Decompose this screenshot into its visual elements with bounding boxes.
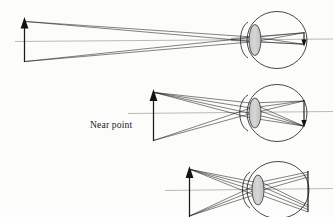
ray-bundle-tip — [191, 170, 255, 196]
ray-bundle — [25, 22, 304, 62]
object-arrow — [150, 89, 158, 141]
figure-canvas: Near point — [0, 0, 333, 217]
optics-figure: Near point — [0, 0, 333, 217]
panel-distant-object — [15, 12, 333, 69]
crystalline-lens — [252, 175, 264, 205]
crystalline-lens — [249, 98, 261, 128]
near-point-label: Near point — [90, 119, 132, 130]
panel-near-point: Near point — [90, 85, 333, 142]
object-arrow — [21, 17, 29, 62]
object-arrow — [186, 166, 194, 217]
optical-axis — [15, 39, 333, 42]
panel-closer-than-near-point — [165, 162, 333, 218]
crystalline-lens — [249, 25, 261, 56]
ray-bundle-tip — [155, 93, 252, 119]
